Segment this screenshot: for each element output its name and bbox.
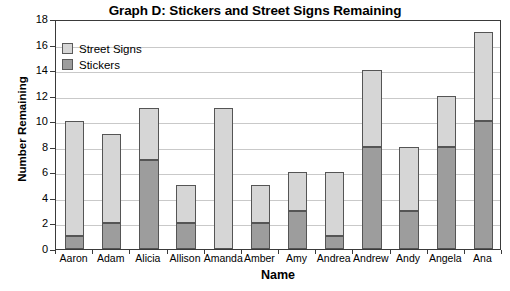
bar-segment-street-signs[interactable] (65, 121, 84, 236)
x-tick-label: Andrea (315, 252, 352, 264)
x-tick-mark (501, 250, 502, 254)
bar-segment-stickers[interactable] (176, 223, 195, 249)
y-tick-label: 10 (8, 116, 48, 127)
x-tick-label: Andrew (352, 252, 389, 264)
y-tick-label: 16 (8, 40, 48, 51)
bar-segment-stickers[interactable] (474, 121, 493, 249)
x-tick-label: Amy (278, 252, 315, 264)
bar-segment-street-signs[interactable] (474, 32, 493, 121)
bar-group[interactable] (437, 19, 456, 249)
y-tick-label: 6 (8, 167, 48, 178)
x-tick-label: Angela (427, 252, 464, 264)
gridline (56, 225, 500, 226)
bar-group[interactable] (474, 19, 493, 249)
x-tick-label: Amanda (204, 252, 241, 264)
bar-segment-stickers[interactable] (399, 211, 418, 249)
stickers-swatch-icon (62, 59, 73, 70)
bar-segment-stickers[interactable] (362, 147, 381, 249)
bar-segment-street-signs[interactable] (176, 185, 195, 223)
legend-item[interactable]: Stickers (62, 57, 142, 72)
legend-label: Stickers (79, 59, 120, 71)
x-axis-title: Name (55, 268, 501, 282)
bar-segment-street-signs[interactable] (288, 172, 307, 210)
bar-segment-street-signs[interactable] (325, 172, 344, 236)
x-tick-label: Andy (390, 252, 427, 264)
bar-segment-stickers[interactable] (65, 236, 84, 249)
bar-segment-street-signs[interactable] (251, 185, 270, 223)
y-tick-label: 8 (8, 142, 48, 153)
y-tick-label: 2 (8, 218, 48, 229)
bar-segment-street-signs[interactable] (139, 108, 158, 159)
x-tick-label: Allison (167, 252, 204, 264)
bar-group[interactable] (214, 19, 233, 249)
bar-segment-stickers[interactable] (325, 236, 344, 249)
bar-group[interactable] (176, 19, 195, 249)
street-signs-swatch-icon (62, 43, 73, 54)
y-tick-label: 18 (8, 14, 48, 25)
gridline (56, 174, 500, 175)
gridline (56, 123, 500, 124)
y-tick-label: 14 (8, 65, 48, 76)
bar-segment-stickers[interactable] (102, 223, 121, 249)
x-tick-label: Adam (92, 252, 129, 264)
bar-group[interactable] (139, 19, 158, 249)
gridline (56, 200, 500, 201)
bar-group[interactable] (362, 19, 381, 249)
bar-group[interactable] (251, 19, 270, 249)
y-tick-label: 12 (8, 91, 48, 102)
bar-segment-street-signs[interactable] (399, 147, 418, 211)
y-tick-label: 0 (8, 244, 48, 255)
bar-group[interactable] (399, 19, 418, 249)
bar-group[interactable] (288, 19, 307, 249)
bar-segment-stickers[interactable] (139, 160, 158, 249)
bar-segment-street-signs[interactable] (102, 134, 121, 223)
x-tick-label: Aaron (55, 252, 92, 264)
x-tick-label: Alicia (129, 252, 166, 264)
gridline (56, 149, 500, 150)
x-tick-label: Amber (241, 252, 278, 264)
gridline (56, 98, 500, 99)
bar-segment-stickers[interactable] (437, 147, 456, 249)
bar-segment-street-signs[interactable] (214, 108, 233, 249)
x-tick-label: Ana (464, 252, 501, 264)
bar-group[interactable] (325, 19, 344, 249)
legend-label: Street Signs (79, 43, 142, 55)
bar-chart: Graph D: Stickers and Street Signs Remai… (0, 0, 510, 291)
bar-segment-street-signs[interactable] (362, 70, 381, 147)
y-tick-label: 4 (8, 193, 48, 204)
bar-segment-stickers[interactable] (288, 211, 307, 249)
legend-item[interactable]: Street Signs (62, 41, 142, 56)
bar-segment-street-signs[interactable] (437, 96, 456, 147)
bar-segment-stickers[interactable] (251, 223, 270, 249)
chart-legend: Street SignsStickers (62, 41, 142, 73)
